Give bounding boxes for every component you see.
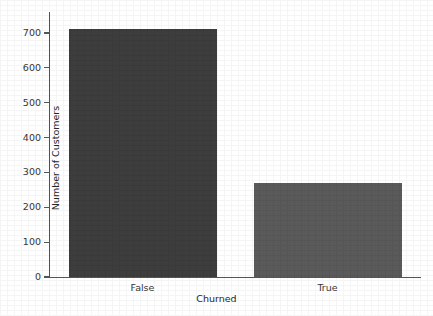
y-axis-tick-label: 300 xyxy=(23,168,41,178)
y-axis-tick-label: 0 xyxy=(35,272,41,282)
bar-chart-figure: 0100200300400500600700 FalseTrue Churned… xyxy=(0,0,433,316)
bar-false xyxy=(69,29,217,277)
x-axis-tick-label: False xyxy=(131,283,155,293)
y-axis-tick-label: 700 xyxy=(23,28,41,38)
x-axis-title: Churned xyxy=(0,294,433,304)
y-axis-tick-label: 100 xyxy=(23,237,41,247)
y-axis-tick-label: 400 xyxy=(23,133,41,143)
y-axis-tick-label: 600 xyxy=(23,63,41,73)
x-axis-tick-label: True xyxy=(317,283,337,293)
plot-area xyxy=(50,12,420,277)
y-axis-tick-label: 500 xyxy=(23,98,41,108)
x-axis-spine xyxy=(49,277,421,278)
y-axis-title: Number of Customers xyxy=(51,106,61,210)
y-axis-tick-label: 200 xyxy=(23,203,41,213)
bar-true xyxy=(254,183,402,277)
